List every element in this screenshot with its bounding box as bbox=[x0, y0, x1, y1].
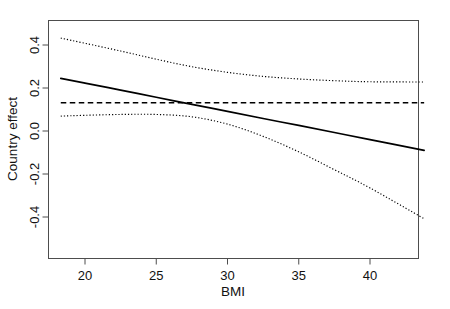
y-tick-label: -0.4 bbox=[27, 206, 42, 228]
x-tick-label: 25 bbox=[149, 268, 163, 283]
x-tick-label: 30 bbox=[220, 268, 234, 283]
x-axis-title: BMI bbox=[221, 284, 245, 299]
x-tick-label: 40 bbox=[363, 268, 377, 283]
chart-background bbox=[0, 0, 450, 309]
y-tick-label: 0.4 bbox=[27, 36, 42, 54]
x-tick-label: 20 bbox=[78, 268, 92, 283]
y-axis-title: Country effect bbox=[5, 97, 20, 181]
y-tick-label: -0.2 bbox=[27, 163, 42, 185]
chart-figure: 2025303540 0.40.20.0-0.2-0.4 BMI Country… bbox=[0, 0, 450, 309]
y-tick-label: 0.0 bbox=[27, 122, 42, 140]
country-effect-vs-bmi-chart: 2025303540 0.40.20.0-0.2-0.4 BMI Country… bbox=[0, 0, 450, 309]
x-tick-label: 35 bbox=[292, 268, 306, 283]
y-tick-label: 0.2 bbox=[27, 79, 42, 97]
